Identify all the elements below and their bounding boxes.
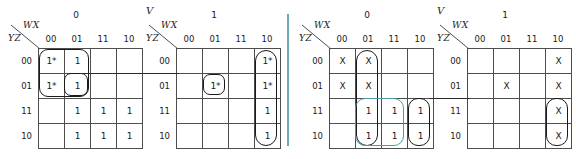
- kmap-4-colhdr-3: 10: [545, 34, 571, 44]
- kmap-2-v-label: V: [146, 5, 153, 16]
- kmap-3-rowhdr-2: 11: [305, 106, 323, 116]
- kmap-2-cell-r2c2[interactable]: [229, 99, 255, 124]
- kmap-4-cell-r0c1[interactable]: [494, 49, 520, 74]
- kmap-1-colhdr-2: 11: [90, 34, 116, 44]
- connector-line-bottom-pair: [430, 98, 470, 99]
- kmap-3-colhdr-2: 11: [381, 34, 407, 44]
- kmap-4-cell-r3c2[interactable]: [520, 124, 546, 149]
- kmap-3-cell-r1c2[interactable]: [382, 74, 408, 99]
- kmap-4-col-var-label: WX: [452, 20, 469, 30]
- kmap-3-col-var-label: WX: [314, 20, 331, 30]
- kmap-4-cell-r1c1[interactable]: X: [494, 74, 520, 99]
- kmap-1-rowhdr-2: 11: [14, 106, 32, 116]
- kmap-2-v-value: 1: [204, 10, 224, 20]
- kmap-4-colhdr-0: 00: [467, 34, 493, 44]
- kmap-4-cell-r2c0[interactable]: [468, 99, 494, 124]
- kmap-2-cell-r3c1[interactable]: [203, 124, 229, 149]
- kmap-4-cell-r3c1[interactable]: [494, 124, 520, 149]
- kmap-1-col-var-label: WX: [23, 20, 40, 30]
- kmap-2-cell-r2c0[interactable]: [177, 99, 203, 124]
- kmap-3-cell-r0c3[interactable]: [408, 49, 434, 74]
- kmap-2-rowhdr-3: 10: [152, 131, 170, 141]
- kmap-1-cell-r3c0[interactable]: [39, 124, 65, 149]
- kmap-1-grid: 1* 1 1* 1 1 1 1 1 1 1: [38, 48, 143, 149]
- kmap-3-cell-r2c0[interactable]: [330, 99, 356, 124]
- kmap-4-cell-r1c2[interactable]: [520, 74, 546, 99]
- kmap-4-rowhdr-2: 11: [443, 106, 461, 116]
- kmap-2-colhdr-0: 00: [176, 34, 202, 44]
- kmap-4-colhdr-1: 01: [493, 34, 519, 44]
- kmap-4-cell-r1c3[interactable]: X: [546, 74, 572, 99]
- kmap-4-rowhdr-3: 10: [443, 131, 461, 141]
- kmap-3-colhdr-1: 01: [355, 34, 381, 44]
- kmap-3-v-value: 0: [357, 10, 377, 20]
- kmap-3-rowhdr-1: 01: [305, 81, 323, 91]
- kmap-2-rowhdr-1: 01: [152, 81, 170, 91]
- kmap-1-cell-r2c2[interactable]: 1: [91, 99, 117, 124]
- kmap-1-cell-r2c3[interactable]: 1: [117, 99, 143, 124]
- kmap-1-colhdr-0: 00: [38, 34, 64, 44]
- kmap-3-colhdr-0: 00: [329, 34, 355, 44]
- kmap-1-cell-r1c2[interactable]: [91, 74, 117, 99]
- kmap-4-v-label: V: [437, 5, 444, 16]
- kmap-1-v-value: 0: [66, 10, 86, 20]
- kmap-4-v-value: 1: [495, 10, 515, 20]
- kmap-1-cell-r2c1[interactable]: 1: [65, 99, 91, 124]
- kmap-3-cell-r1c0[interactable]: X: [330, 74, 356, 99]
- kmap-2-rowhdr-0: 00: [152, 56, 170, 66]
- kmap-4-colhdr-2: 11: [519, 34, 545, 44]
- kmap-1-colhdr-3: 10: [116, 34, 142, 44]
- kmap-3-cell-r0c2[interactable]: [382, 49, 408, 74]
- kmap-2-colhdr-1: 01: [202, 34, 228, 44]
- kmap-4-cell-r0c2[interactable]: [520, 49, 546, 74]
- kmap-1-colhdr-1: 01: [64, 34, 90, 44]
- kmap-1-cell-r0c2[interactable]: [91, 49, 117, 74]
- kmap-2-col-var-label: WX: [161, 20, 178, 30]
- kmap-1-cell-r3c3[interactable]: 1: [117, 124, 143, 149]
- kmap-3-rowhdr-0: 00: [305, 56, 323, 66]
- section-divider: [287, 14, 289, 146]
- kmap-4-cell-r2c2[interactable]: [520, 99, 546, 124]
- kmap-1-rowhdr-0: 00: [14, 56, 32, 66]
- connector-line-top-pair: [80, 73, 179, 74]
- kmap-4-cell-r0c0[interactable]: [468, 49, 494, 74]
- kmap-4-row-var-label: YZ: [437, 33, 450, 43]
- kmap-2-colhdr-2: 11: [228, 34, 254, 44]
- kmap-4-cell-r2c1[interactable]: [494, 99, 520, 124]
- kmap-2-cell-r3c0[interactable]: [177, 124, 203, 149]
- kmap-2-cell-r1c0[interactable]: [177, 74, 203, 99]
- kmap-4-cell-r3c0[interactable]: [468, 124, 494, 149]
- kmap-4-rowhdr-0: 00: [443, 56, 461, 66]
- kmap-1-cell-r1c3[interactable]: [117, 74, 143, 99]
- kmap-3-row-var-label: YZ: [299, 33, 312, 43]
- kmap-3-rowhdr-3: 10: [305, 131, 323, 141]
- kmap-4-cell-r1c0[interactable]: [468, 74, 494, 99]
- kmap-3-cell-r3c0[interactable]: [330, 124, 356, 149]
- kmap-1-rowhdr-3: 10: [14, 131, 32, 141]
- kmap-3-colhdr-3: 10: [407, 34, 433, 44]
- kmap-2-cell-r0c0[interactable]: [177, 49, 203, 74]
- kmap-2-cell-r0c2[interactable]: [229, 49, 255, 74]
- kmap-1-cell-r3c1[interactable]: 1: [65, 124, 91, 149]
- kmap-2-rowhdr-2: 11: [152, 106, 170, 116]
- kmap-1-cell-r3c2[interactable]: 1: [91, 124, 117, 149]
- kmap-4-cell-r0c3[interactable]: X: [546, 49, 572, 74]
- kmap-2-cell-r0c1[interactable]: [203, 49, 229, 74]
- kmap-3-cell-r1c3[interactable]: [408, 74, 434, 99]
- kmap-2-cell-r1c2[interactable]: [229, 74, 255, 99]
- kmap-1-rowhdr-1: 01: [14, 81, 32, 91]
- kmap-3-cell-r0c0[interactable]: X: [330, 49, 356, 74]
- kmap-1-cell-r2c0[interactable]: [39, 99, 65, 124]
- kmap-2-row-var-label: YZ: [146, 33, 159, 43]
- kmap-2-cell-r3c2[interactable]: [229, 124, 255, 149]
- kmap-2-cell-r2c1[interactable]: [203, 99, 229, 124]
- kmap-1-cell-r0c3[interactable]: [117, 49, 143, 74]
- kmap-1-row-var-label: YZ: [8, 33, 21, 43]
- kmap-2-colhdr-3: 10: [254, 34, 280, 44]
- kmap-4-rowhdr-1: 01: [443, 81, 461, 91]
